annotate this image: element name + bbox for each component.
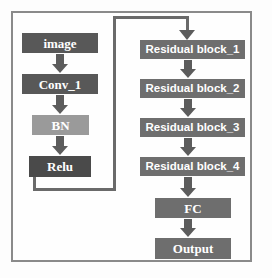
node-bn: BN [32, 115, 89, 135]
arrow-rb3-to-rb4 [180, 138, 196, 156]
node-output-label: Output [173, 242, 213, 255]
node-residual-block-3: Residual block_3 [140, 118, 245, 137]
node-conv-1: Conv_1 [22, 74, 98, 94]
node-residual-block-2: Residual block_2 [140, 79, 245, 98]
node-image: image [22, 33, 98, 53]
node-residual-block-4: Residual block_4 [140, 157, 245, 176]
node-fc: FC [155, 198, 231, 218]
node-fc-label: FC [184, 202, 201, 215]
skip-connection-segment-bottom [33, 188, 116, 191]
node-residual-block-4-label: Residual block_4 [146, 161, 240, 173]
arrow-fc-to-output [180, 219, 196, 237]
skip-connection-arrowhead [179, 30, 195, 40]
arrow-conv1-to-bn [52, 95, 68, 114]
skip-connection-segment-up-right [113, 16, 116, 191]
arrow-rb1-to-rb2 [180, 60, 196, 78]
node-bn-label: BN [51, 119, 69, 132]
diagram-canvas: image Conv_1 BN Relu Residual block_1 [0, 0, 272, 278]
node-output: Output [155, 238, 231, 259]
node-residual-block-2-label: Residual block_2 [146, 83, 240, 95]
arrow-image-to-conv1 [52, 54, 68, 73]
node-residual-block-1: Residual block_1 [140, 40, 245, 59]
arrow-rb2-to-rb3 [180, 99, 196, 117]
node-relu-label: Relu [47, 160, 73, 173]
node-image-label: image [43, 37, 76, 50]
arrow-bn-to-relu [52, 136, 68, 155]
arrow-rb4-to-fc [180, 177, 196, 197]
node-residual-block-1-label: Residual block_1 [146, 44, 240, 56]
skip-connection-segment-top [113, 16, 189, 19]
node-relu: Relu [29, 156, 91, 177]
node-residual-block-3-label: Residual block_3 [146, 122, 240, 134]
node-conv-1-label: Conv_1 [39, 78, 82, 91]
